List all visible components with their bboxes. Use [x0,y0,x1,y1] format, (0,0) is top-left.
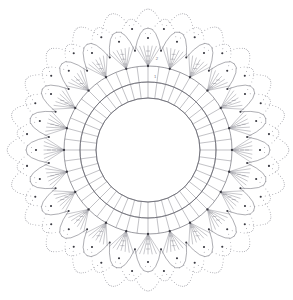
inner-scallop-chain [79,46,80,47]
fan-base-joint [74,191,76,193]
outer-scallop-chain [160,21,161,22]
outer-scallop-chain [260,74,261,75]
outer-scallop-chain [48,249,49,250]
outer-scallop-chain [270,87,271,88]
outer-scallop-chain [214,27,215,28]
outer-scallop-chain [253,74,254,75]
outer-scallop-chain [46,53,47,54]
inner-scallop-chain [66,253,67,254]
outer-scallop-chain [288,148,289,149]
outer-scallop-chain [105,19,106,20]
inner-scallop-chain [28,191,29,192]
inner-scallop-chain [244,67,245,68]
inner-scallop-chain [260,117,261,118]
inner-scallop-chain [278,136,279,137]
inner-scallop-chain [253,71,254,72]
outer-scallop-chain [108,284,109,285]
outer-scallop-chain [135,21,136,22]
inner-scallop-chain [269,194,270,195]
inner-scallop-chain [30,188,31,189]
petal-base-joint [48,136,50,138]
inner-scallop-chain [65,51,66,52]
inner-scallop-chain [267,96,268,97]
outer-scallop-chain [223,37,224,38]
outer-scallop-chain [15,109,16,110]
outer-scallop-chain [156,15,157,16]
inner-scallop-chain [165,280,166,281]
outer-scallop-joint [100,36,102,38]
inner-scallop-joint [50,205,52,207]
outer-scallop-chain [223,40,224,41]
outer-scallop-chain [268,78,269,79]
outer-scallop-chain [246,228,247,229]
outer-scallop-chain [216,272,217,273]
outer-scallop-joint [50,75,52,77]
inner-scallop-chain [278,134,279,135]
fan-base-joint [220,191,222,193]
inner-scallop-chain [208,249,209,250]
outer-scallop-chain [162,24,163,25]
inner-scallop-chain [55,232,56,233]
outer-scallop-chain [283,119,284,120]
outer-scallop-chain [273,164,274,165]
outer-scallop-chain [249,246,250,247]
inner-scallop-chain [103,28,104,29]
outer-scallop-chain [75,30,76,31]
inner-scallop-chain [175,263,176,264]
inner-scallop-chain [171,274,172,275]
fan-base-joint [231,149,233,151]
inner-scallop-chain [229,46,230,47]
inner-scallop-chain [192,271,193,272]
inner-scallop-chain [216,253,217,254]
inner-scallop-joint [147,37,149,39]
outer-scallop-chain [171,280,172,281]
outer-scallop-chain [72,44,73,45]
inner-scallop-chain [150,33,151,34]
inner-scallop-chain [272,126,273,127]
outer-scallop-chain [139,284,140,285]
inner-scallop-chain [36,182,37,183]
outer-scallop-chain [65,50,66,51]
outer-scallop-chain [144,10,145,11]
inner-scallop-chain [247,232,248,233]
fan-base-joint [220,107,222,109]
outer-scallop-chain [284,115,285,116]
outer-scallop-chain [20,128,21,129]
inner-scallop-chain [25,101,26,102]
inner-scallop-joint [244,205,246,207]
outer-scallop-chain [25,81,26,82]
inner-scallop-chain [44,81,45,82]
inner-scallop-chain [278,163,279,164]
fan-base-joint [66,127,68,129]
inner-scallop-chain [275,127,276,128]
outer-scallop-chain [151,10,152,11]
outer-scallop-chain [223,259,224,260]
outer-scallop-chain [267,77,268,78]
outer-scallop-chain [244,48,245,49]
outer-scallop-chain [91,269,92,270]
outer-scallop-chain [221,32,222,33]
outer-scallop-chain [233,250,234,251]
outer-scallop-chain [178,285,179,286]
inner-scallop-chain [24,157,25,158]
outer-scallop-chain [74,267,75,268]
outer-scallop-chain [284,142,285,143]
outer-scallop-chain [284,113,285,114]
outer-scallop-chain [226,51,227,52]
outer-scallop-chain [135,278,136,279]
outer-scallop-chain [22,164,23,165]
outer-scallop-chain [148,290,149,291]
inner-scallop-chain [43,230,44,231]
inner-scallop-chain [258,205,259,206]
outer-scallop-chain [263,99,264,100]
inner-scallop-chain [155,26,156,27]
outer-scallop-chain [13,158,14,159]
inner-scallop-chain [69,255,70,256]
inner-scallop-chain [125,277,126,278]
outer-scallop-chain [27,221,28,222]
inner-scallop-joint [50,93,52,95]
outer-scallop-chain [223,255,224,256]
inner-scallop-chain [240,232,241,233]
outer-scallop-chain [226,248,227,249]
inner-scallop-chain [120,36,121,37]
